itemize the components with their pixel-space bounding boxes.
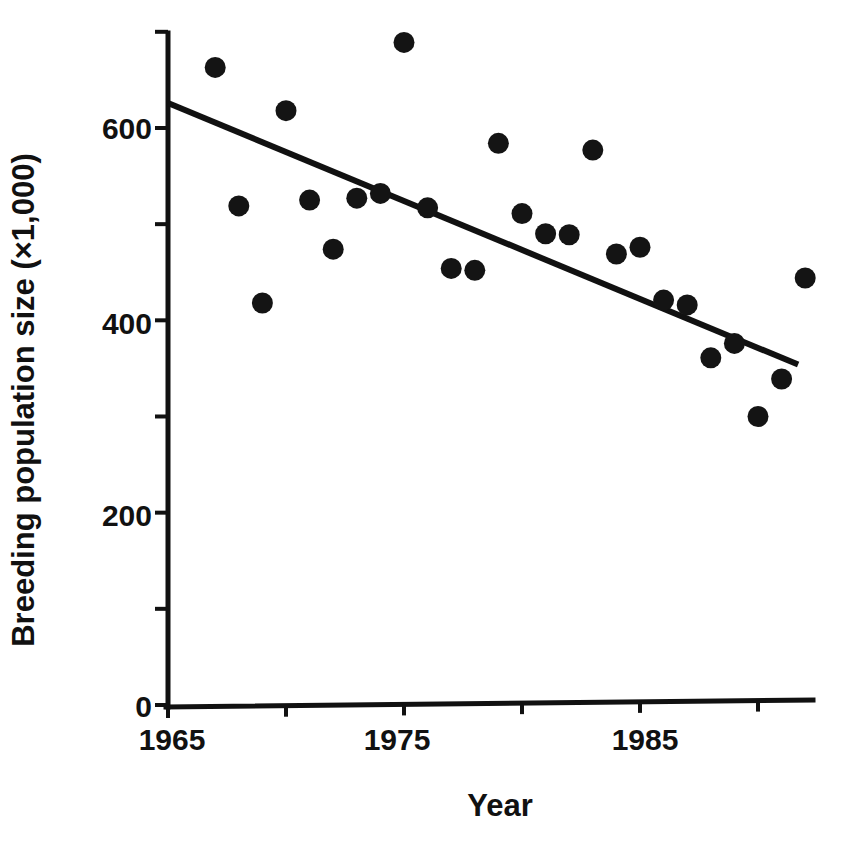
data-point: [512, 203, 533, 224]
data-point: [559, 224, 580, 245]
data-point: [606, 243, 627, 264]
data-point: [771, 368, 792, 389]
data-point: [795, 268, 816, 289]
regression-trend-line: [168, 103, 798, 365]
data-point: [394, 32, 415, 53]
x-tick-label-1985: 1985: [612, 723, 679, 756]
y-tick-label-600: 600: [102, 112, 152, 145]
y-axis-title: Breeding population size (×1,000): [6, 153, 41, 647]
data-point: [653, 290, 674, 311]
data-point: [441, 258, 462, 279]
data-point: [417, 197, 438, 218]
data-point: [464, 260, 485, 281]
chart-figure: Breeding population size (×1,000) Year 6…: [0, 0, 865, 852]
scatter-plot: Breeding population size (×1,000) Year 6…: [0, 0, 865, 852]
data-point-group: [205, 32, 816, 427]
y-tick-label-200: 200: [102, 499, 152, 532]
data-point: [323, 239, 344, 260]
data-point: [252, 293, 273, 314]
data-point: [748, 406, 769, 427]
data-point: [346, 188, 367, 209]
y-tick-label-400: 400: [102, 307, 152, 340]
data-point: [582, 140, 603, 161]
data-point: [276, 100, 297, 121]
y-tick-label-0: 0: [135, 690, 152, 723]
data-point: [370, 183, 391, 204]
data-point: [535, 223, 556, 244]
data-point: [700, 347, 721, 368]
data-point: [677, 294, 698, 315]
data-point: [299, 190, 320, 211]
x-axis-line: [166, 700, 813, 707]
x-axis-title: Year: [467, 788, 533, 823]
x-tick-label-1975: 1975: [364, 723, 431, 756]
data-point: [205, 57, 226, 78]
data-point: [488, 133, 509, 154]
x-tick-label-1965: 1965: [139, 723, 206, 756]
data-point: [630, 237, 651, 258]
data-point: [724, 333, 745, 354]
data-point: [228, 195, 249, 216]
